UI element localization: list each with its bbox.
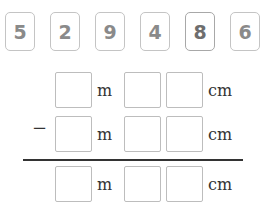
m-unit-label: m [97, 83, 112, 99]
digit-card[interactable]: 8 [185, 12, 215, 51]
cm-tens-input-box[interactable] [124, 72, 161, 108]
digit-card[interactable]: 9 [95, 12, 125, 51]
cm-ones-input-box[interactable] [166, 166, 203, 202]
cm-unit-label: cm [208, 83, 232, 99]
minus-sign: − [32, 117, 47, 138]
m-unit-label: m [97, 177, 112, 193]
cm-tens-input-box[interactable] [124, 116, 161, 152]
m-input-box[interactable] [55, 72, 92, 108]
m-input-box[interactable] [55, 166, 92, 202]
cm-unit-label: cm [208, 127, 232, 143]
m-input-box[interactable] [55, 116, 92, 152]
result-divider-line [23, 159, 243, 161]
digit-card[interactable]: 4 [140, 12, 170, 51]
cm-ones-input-box[interactable] [166, 116, 203, 152]
cm-ones-input-box[interactable] [166, 72, 203, 108]
cm-unit-label: cm [208, 177, 232, 193]
digit-card[interactable]: 2 [50, 12, 80, 51]
cm-tens-input-box[interactable] [124, 166, 161, 202]
digit-card[interactable]: 5 [5, 12, 35, 51]
digit-card[interactable]: 6 [230, 12, 260, 51]
m-unit-label: m [97, 127, 112, 143]
